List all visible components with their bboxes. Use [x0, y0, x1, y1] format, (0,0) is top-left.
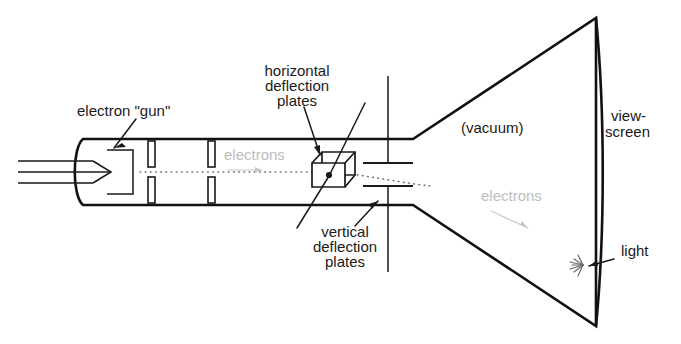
light-burst-icon [570, 255, 583, 276]
view-screen-label-line2: screen [605, 123, 650, 140]
anode-aperture-2-top [208, 141, 215, 167]
anode-aperture-2-bottom [208, 177, 215, 203]
view-screen-label: view- screen [605, 107, 650, 140]
light-label: light [621, 242, 649, 259]
electrons-cone-arrow-head [520, 221, 528, 228]
electron-gun-label: electron "gun" [77, 102, 170, 119]
horizontal-plates-label-line3: plates [277, 92, 317, 109]
crt-diagram-canvas: electrons electrons [0, 0, 681, 344]
electron-beam-path-downstream [352, 174, 430, 186]
vertical-plates-label: vertical deflection plates [313, 223, 377, 270]
anode-aperture-1-top [148, 141, 155, 167]
horizontal-plates-label: horizontal deflection plates [264, 62, 329, 109]
vertical-plates-label-line3: plates [325, 253, 365, 270]
view-screen-label-line1: view- [611, 107, 646, 124]
vacuum-label: (vacuum) [461, 119, 524, 136]
crt-diagram: electrons electrons [0, 0, 681, 344]
electrons-neck-label: electrons [224, 146, 285, 163]
electron-gun-leader [114, 119, 136, 148]
electrons-cone-label: electrons [481, 187, 542, 204]
horizontal-plates-leader-head [314, 145, 320, 155]
light-leader-head [589, 260, 598, 266]
anode-aperture-1-bottom [148, 177, 155, 203]
